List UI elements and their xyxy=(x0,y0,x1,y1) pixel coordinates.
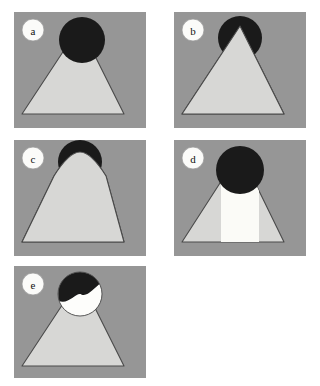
panel-e: e xyxy=(14,266,146,378)
panel-a: a xyxy=(14,12,146,128)
panel-d: d xyxy=(174,140,306,256)
panel-b: b xyxy=(174,12,306,128)
panel-label-text: c xyxy=(31,153,36,165)
panel-c: c xyxy=(14,140,146,256)
panel-label-text: d xyxy=(190,153,196,165)
panel-label-text: b xyxy=(190,25,196,37)
panel-label-text: a xyxy=(31,25,36,37)
dark-sphere-cap xyxy=(59,17,105,63)
dark-sphere-cap xyxy=(216,146,264,194)
figure-canvas: abcde xyxy=(0,0,320,386)
panel-label-text: e xyxy=(31,279,36,291)
